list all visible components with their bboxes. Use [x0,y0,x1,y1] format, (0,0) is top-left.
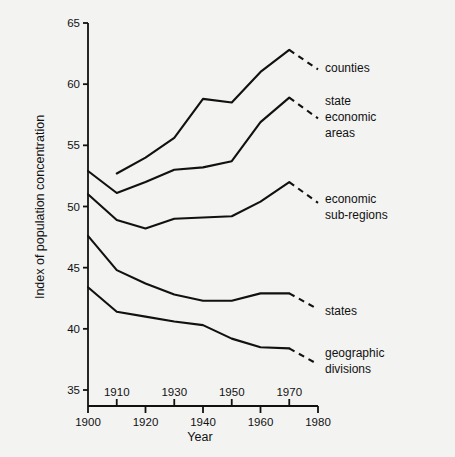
series-line-counties [117,50,290,174]
x-axis-tick-label-lower: 1920 [133,416,159,428]
series-line-states [88,236,289,301]
series-leader-state-economic-areas [289,98,318,119]
series-line-geographic-divisions [88,287,289,348]
y-axis-tick-label: 55 [67,139,80,151]
series-leader-states [289,293,318,309]
x-axis-tick-label-lower: 1940 [190,416,216,428]
x-axis-tick-label-lower: 1980 [305,416,331,428]
series-label-state-economic-areas: state [325,94,351,108]
series-label-state-economic-areas: economic [325,110,376,124]
x-axis-tick-label-upper: 1970 [276,386,302,398]
y-axis-tick-label: 35 [67,384,80,396]
series-label-state-economic-areas: areas [325,126,355,140]
y-axis-title: Index of population concentration [33,115,47,299]
y-axis-tick-label: 50 [67,201,80,213]
series-leader-geographic-divisions [289,348,318,364]
x-axis-tick-label-lower: 1960 [248,416,274,428]
series-label-counties: counties [325,61,370,75]
y-axis-tick-label: 60 [67,78,80,90]
series-leader-economic-sub-regions [289,182,318,203]
x-axis-tick-label-upper: 1910 [104,386,130,398]
series-leader-counties [289,50,318,70]
series-label-economic-sub-regions: sub-regions [325,208,388,222]
series-line-state-economic-areas [88,98,289,193]
series-label-geographic-divisions: divisions [325,362,371,376]
series-label-economic-sub-regions: economic [325,192,376,206]
x-axis-tick-label-lower: 1900 [75,416,101,428]
chart-canvas: 6560555045403519101930195019701900192019… [0,0,455,457]
series-label-states: states [325,304,357,318]
series-line-economic-sub-regions [88,182,289,228]
y-axis-tick-label: 65 [67,17,80,29]
x-axis-tick-label-upper: 1930 [161,386,187,398]
series-label-geographic-divisions: geographic [325,346,384,360]
y-axis-tick-label: 45 [67,262,80,274]
y-axis-tick-label: 40 [67,323,80,335]
x-axis-title: Year [187,430,212,444]
population-concentration-chart: 6560555045403519101930195019701900192019… [0,0,455,457]
x-axis-tick-label-upper: 1950 [219,386,245,398]
